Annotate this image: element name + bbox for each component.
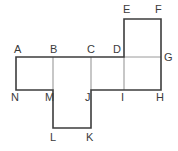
vertex-label-N: N (11, 92, 19, 103)
net-diagram-figure: A B C D E F G H I J K L M N (0, 0, 178, 151)
vertex-label-K: K (86, 132, 93, 143)
inner-grid-lines (53, 57, 161, 90)
vertex-label-E: E (123, 4, 130, 15)
vertex-label-B: B (50, 44, 57, 55)
net-diagram-svg (0, 0, 178, 151)
vertex-label-C: C (87, 44, 95, 55)
vertex-label-J: J (85, 92, 91, 103)
vertex-label-D: D (113, 44, 121, 55)
vertex-label-H: H (156, 92, 164, 103)
vertex-label-G: G (164, 52, 173, 63)
vertex-label-M: M (45, 92, 54, 103)
net-outline-path (16, 19, 161, 128)
vertex-label-A: A (14, 44, 21, 55)
vertex-label-F: F (155, 4, 162, 15)
vertex-label-I: I (121, 92, 124, 103)
vertex-label-L: L (50, 132, 56, 143)
